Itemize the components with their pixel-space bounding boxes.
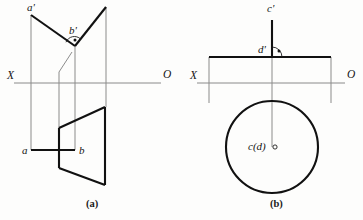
panel-b-label-d-prime: d'	[258, 43, 267, 55]
panel-a-trapezoid-top	[59, 107, 105, 128]
panel-a-plane-front-slope	[59, 52, 72, 72]
panel-b-right-angle-mark-d-prime	[272, 47, 282, 57]
panel-b-center-point-marker	[273, 145, 277, 149]
figure-canvas: XOa'b'ab(a)XOc'd'c(d)(b)	[0, 0, 363, 220]
panel-a-label-a: a	[22, 144, 28, 156]
panel-a-label-b: b	[79, 144, 85, 156]
panel-b-label-c-d: c(d)	[248, 140, 266, 153]
panel-b-label-c-prime: c'	[267, 2, 275, 14]
panel-b-right-angle-dot	[278, 50, 281, 53]
panel-a-label-a-prime: a'	[27, 1, 36, 13]
panel-a-label-b-prime: b'	[69, 24, 78, 36]
panel-a-axis-label-x: X	[6, 69, 15, 81]
geometry-figure: XOa'b'ab(a)XOc'd'c(d)(b)	[0, 0, 363, 220]
panel-b-axis-label-o: O	[347, 68, 356, 80]
panel-a-axis-label-o: O	[163, 68, 172, 80]
panel-a-plane-edge-rising	[75, 7, 106, 46]
panel-a-caption: (a)	[86, 198, 99, 210]
panel-b-axis-label-x: X	[189, 69, 198, 81]
panel-b-caption: (b)	[270, 198, 283, 210]
panel-a-trapezoid-bottom	[59, 168, 105, 185]
panel-a-right-angle-dot	[74, 39, 77, 42]
